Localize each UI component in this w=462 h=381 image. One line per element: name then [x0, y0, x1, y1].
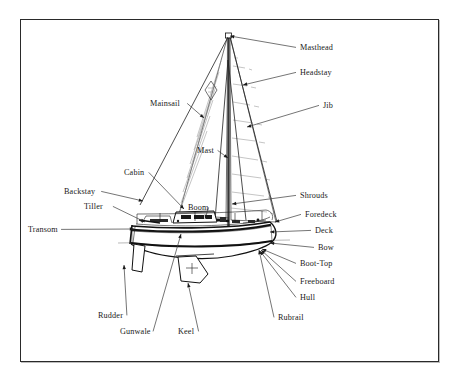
leader-arrowhead-shrouds [232, 202, 236, 205]
leader-line-gunwale [153, 234, 181, 331]
leader-line-boot-top [262, 249, 296, 263]
leader-line-headstay [243, 72, 296, 85]
callout-mast: Mast [197, 146, 228, 158]
callout-label-foredeck: Foredeck [305, 210, 337, 219]
callout-label-keel: Keel [178, 327, 195, 336]
callout-freeboard: Freeboard [261, 250, 335, 286]
callout-label-rubrail: Rubrail [278, 313, 304, 322]
callout-label-transom: Transom [28, 225, 58, 234]
callout-tiller: Tiller [84, 202, 145, 222]
leader-line-cabin [149, 172, 184, 209]
callout-label-boot-top: Boot-Top [300, 259, 332, 268]
callout-headstay: Headstay [243, 68, 332, 86]
keel-fin [178, 256, 208, 283]
callout-rubrail: Rubrail [258, 250, 304, 322]
leader-line-jib [247, 105, 319, 127]
leader-line-masthead [230, 36, 296, 47]
callout-rudder: Rudder [98, 265, 127, 320]
leader-line-bow [270, 243, 314, 247]
callout-label-headstay: Headstay [300, 68, 332, 77]
callout-mainsail: Mainsail [150, 99, 204, 118]
callout-label-tiller: Tiller [84, 202, 103, 211]
callout-jib: Jib [247, 101, 333, 127]
callout-cabin: Cabin [124, 168, 184, 209]
callout-label-backstay: Backstay [64, 187, 96, 196]
callout-label-rudder: Rudder [98, 311, 123, 320]
freeboard-band [132, 226, 272, 246]
leader-arrowhead-rudder [123, 265, 126, 269]
masthead-fitting [226, 33, 232, 38]
leader-arrowhead-keel [187, 283, 190, 287]
callout-label-deck: Deck [315, 226, 334, 235]
callout-transom: Transom [28, 225, 134, 234]
leader-line-backstay [101, 191, 143, 201]
callout-masthead: Masthead [230, 35, 333, 52]
jib-seams [231, 58, 274, 214]
sailboat-diagram-figure: MastheadHeadstayJibShroudsForedeckDeckBo… [0, 0, 462, 381]
callout-label-boom: Boom [188, 203, 209, 212]
callout-label-shrouds: Shrouds [300, 191, 328, 200]
leader-line-hull [260, 251, 296, 297]
rudder-blade [132, 244, 145, 272]
backstay-line [140, 37, 228, 205]
callout-label-mast: Mast [197, 146, 215, 155]
headstay-line [230, 37, 277, 222]
sailboat-illustration: MastheadHeadstayJibShroudsForedeckDeckBo… [0, 0, 462, 381]
callout-bow: Bow [270, 242, 334, 252]
leader-line-shrouds [232, 195, 296, 204]
callout-label-cabin: Cabin [124, 168, 144, 177]
leader-arrowhead-jib [247, 124, 252, 127]
callout-label-freeboard: Freeboard [300, 277, 335, 286]
callout-foredeck: Foredeck [275, 210, 337, 222]
leader-line-keel [188, 283, 199, 331]
callout-label-mainsail: Mainsail [150, 99, 180, 108]
callout-backstay: Backstay [64, 187, 143, 202]
rig-and-sails [140, 33, 277, 226]
leader-line-rudder [124, 265, 127, 315]
callout-label-jib: Jib [323, 101, 333, 110]
callout-label-masthead: Masthead [300, 43, 333, 52]
callout-label-gunwale: Gunwale [120, 327, 151, 336]
callout-layer: MastheadHeadstayJibShroudsForedeckDeckBo… [28, 35, 337, 336]
callout-deck: Deck [270, 226, 334, 235]
leader-line-freeboard [261, 250, 296, 281]
callout-label-bow: Bow [318, 243, 334, 252]
callout-keel: Keel [178, 283, 199, 336]
callout-gunwale: Gunwale [120, 234, 181, 336]
callout-label-hull: Hull [300, 293, 316, 302]
callout-shrouds: Shrouds [232, 191, 328, 205]
